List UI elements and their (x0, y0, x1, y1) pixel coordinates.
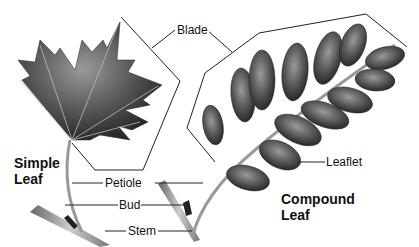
label-leaflet: Leaflet (325, 156, 363, 169)
title-compound-line2: Leaf (281, 207, 355, 223)
title-simple-line2: Leaf (14, 171, 60, 187)
simple-leaf-blade (18, 22, 162, 140)
label-stem: Stem (127, 225, 157, 238)
leaf-diagram: Blade Petiole Bud Stem Leaflet Simple Le… (0, 0, 419, 247)
label-bud: Bud (118, 199, 141, 212)
title-compound-line1: Compound (281, 191, 355, 207)
title-simple-leaf: Simple Leaf (14, 155, 60, 187)
diagram-graphics (0, 0, 419, 247)
compound-leaflets (200, 20, 407, 195)
title-simple-line1: Simple (14, 155, 60, 171)
simple-stem-branch (30, 205, 110, 247)
label-petiole: Petiole (104, 177, 143, 190)
label-blade: Blade (176, 24, 209, 37)
title-compound-leaf: Compound Leaf (281, 191, 355, 223)
